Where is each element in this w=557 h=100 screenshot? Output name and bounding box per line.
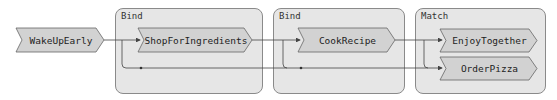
node-enjoytogether[interactable]: EnjoyTogether <box>444 29 535 52</box>
node-wakeupearly[interactable]: WakeUpEarly <box>20 28 102 52</box>
edge-dot <box>300 67 303 70</box>
node-orderpizza[interactable]: OrderPizza <box>444 57 535 80</box>
edge-wake-failure <box>122 40 141 68</box>
node-cookrecipe[interactable]: CookRecipe <box>302 28 393 52</box>
node-shopforingredients[interactable]: ShopForIngredients <box>142 28 250 52</box>
edge-dot <box>140 67 143 70</box>
edge-cook-pizza <box>424 40 428 68</box>
edge-shop-failure <box>283 40 287 68</box>
